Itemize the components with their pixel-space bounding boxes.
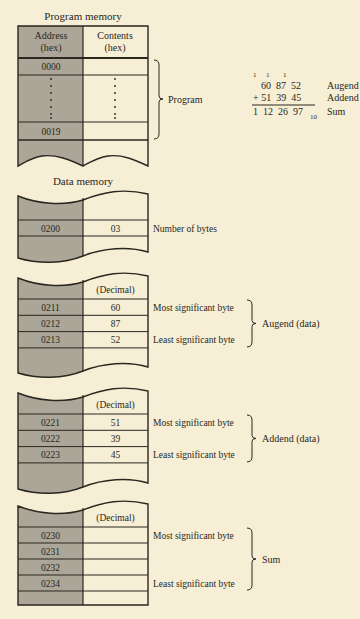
address-cell: 0232 xyxy=(41,563,60,573)
carry-digit: 1 xyxy=(266,71,270,79)
program-memory-table: Address (hex) Contents (hex) 0000 0019 xyxy=(18,26,148,166)
address-cell: 0211 xyxy=(41,303,60,313)
bracket-label: Addend (data) xyxy=(262,433,319,445)
address-cell: 0213 xyxy=(41,335,60,345)
sum-base-subscript: 10 xyxy=(310,113,318,121)
value-cell: 87 xyxy=(111,319,121,329)
memory-block: (Decimal)022151Most significant byte0222… xyxy=(18,388,319,493)
program-label: Program xyxy=(168,94,203,105)
memory-row: 0232 xyxy=(41,563,60,573)
decimal-header: (Decimal) xyxy=(96,285,135,296)
memory-block: (Decimal)0230Most significant byte023102… xyxy=(18,501,281,605)
sum-label: Sum xyxy=(327,106,346,117)
carry-digit: 1 xyxy=(253,71,257,79)
data-memory-blocks: 020003Number of bytes(Decimal)021160Most… xyxy=(18,191,319,605)
memory-block: (Decimal)021160Most significant byte0212… xyxy=(18,273,319,377)
value-cell: 45 xyxy=(111,450,121,460)
address-cell: 0200 xyxy=(41,224,60,234)
decimal-header: (Decimal) xyxy=(96,513,135,524)
address-cell: 0222 xyxy=(41,434,60,444)
row-note: Most significant byte xyxy=(153,418,234,428)
memory-block: 020003Number of bytes xyxy=(18,191,217,262)
header-contents-unit: (hex) xyxy=(104,42,125,54)
value-cell: 39 xyxy=(111,434,121,444)
sum-value: 1 12 26 97 xyxy=(253,106,303,117)
address-cell: 0223 xyxy=(41,450,60,460)
augend-value: 60 87 52 xyxy=(261,80,301,91)
address-cell: 0019 xyxy=(42,127,61,137)
memory-row: 0231 xyxy=(41,547,60,557)
addend-value: + 51 39 45 xyxy=(253,92,301,103)
bracket-label: Sum xyxy=(262,554,281,565)
header-contents: Contents xyxy=(97,30,133,41)
program-memory-title: Program memory xyxy=(44,10,122,22)
addition-example: 1 1 1 60 87 52 + 51 39 45 1 12 26 97 10 … xyxy=(252,71,359,121)
value-cell: 51 xyxy=(111,418,121,428)
decimal-header: (Decimal) xyxy=(96,400,135,411)
data-memory-title: Data memory xyxy=(53,175,114,187)
addend-label: Addend xyxy=(327,92,359,103)
brace xyxy=(247,415,256,462)
header-address-unit: (hex) xyxy=(40,42,61,54)
brace xyxy=(247,300,256,347)
row-note: Least significant byte xyxy=(153,579,235,589)
row-note: Least significant byte xyxy=(153,450,235,460)
row-note: Most significant byte xyxy=(153,303,234,313)
address-cell: 0212 xyxy=(41,319,60,329)
brace xyxy=(247,528,256,590)
augend-label: Augend xyxy=(327,80,359,91)
address-cell: 0230 xyxy=(41,531,60,541)
carry-digit: 1 xyxy=(283,71,287,79)
address-cell: 0221 xyxy=(41,418,60,428)
value-cell: 60 xyxy=(111,303,121,313)
address-cell: 0231 xyxy=(41,547,60,557)
row-note: Number of bytes xyxy=(153,224,217,234)
value-cell: 03 xyxy=(111,224,121,234)
address-cell: 0234 xyxy=(41,579,60,589)
memory-diagram: Program memory Address (hex) Contents (h… xyxy=(0,0,360,619)
value-cell: 52 xyxy=(111,335,121,345)
address-cell: 0000 xyxy=(42,62,61,72)
program-brace xyxy=(154,60,163,139)
header-address: Address xyxy=(35,30,68,41)
bracket-label: Augend (data) xyxy=(262,318,319,330)
row-note: Least significant byte xyxy=(153,335,235,345)
row-note: Most significant byte xyxy=(153,531,234,541)
ellipsis-dots-contents xyxy=(114,78,116,119)
